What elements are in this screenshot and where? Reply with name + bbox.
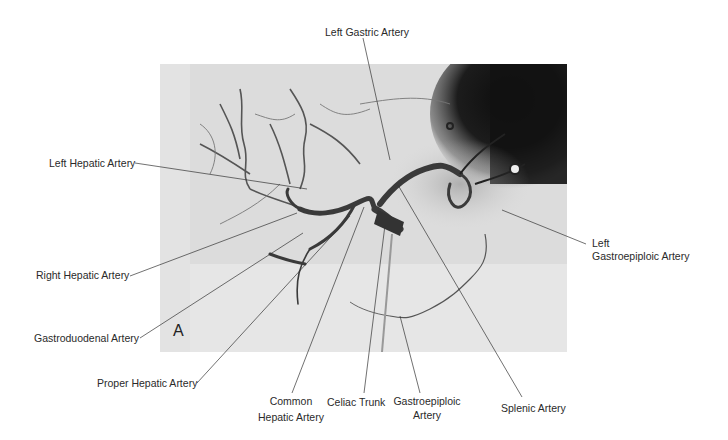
panel-letter: A — [173, 322, 184, 340]
label-splenic-artery: Splenic Artery — [501, 402, 566, 415]
label-proper-hepatic-artery: Proper Hepatic Artery — [97, 377, 197, 390]
label-common-hepatic-line1: Common — [251, 395, 331, 408]
label-common-hepatic-artery: Common Hepatic Artery — [251, 395, 331, 424]
label-left-gastroepiploic-line1: Left — [592, 237, 689, 250]
label-right-hepatic-artery: Right Hepatic Artery — [36, 269, 129, 282]
angiogram-figure: Left Gastric Artery Left Hepatic Artery … — [0, 0, 728, 440]
label-gastroepiploic-artery: Gastroepiploic Artery — [391, 395, 463, 422]
label-common-hepatic-line2: Hepatic Artery — [251, 411, 331, 424]
label-gastroepiploic-line1: Gastroepiploic — [391, 395, 463, 408]
label-gastroepiploic-line2: Artery — [391, 409, 463, 422]
label-left-gastroepiploic-line2: Gastroepiploic Artery — [592, 250, 689, 263]
label-celiac-trunk: Celiac Trunk — [327, 396, 385, 409]
label-left-gastroepiploic-artery: Left Gastroepiploic Artery — [592, 237, 689, 263]
angiogram-image — [160, 64, 567, 352]
label-left-gastric-artery: Left Gastric Artery — [325, 26, 409, 39]
label-left-hepatic-artery: Left Hepatic Artery — [49, 157, 135, 170]
label-gastroduodenal-artery: Gastroduodenal Artery — [34, 332, 139, 345]
